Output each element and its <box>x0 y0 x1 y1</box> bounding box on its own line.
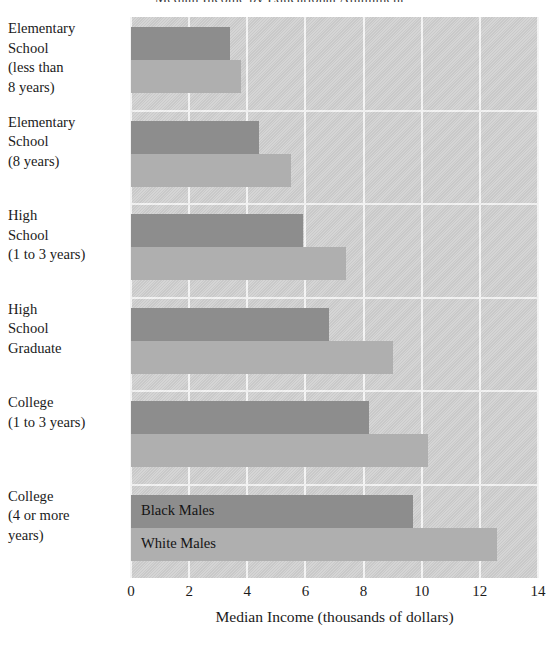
bar-white-males-group-4 <box>131 341 393 374</box>
category-label-line: High <box>8 206 130 226</box>
gridline-horizontal-2 <box>131 203 538 205</box>
category-label-line: 8 years) <box>8 78 130 98</box>
bar-white-males-group-5 <box>131 434 428 467</box>
category-label-line: Graduate <box>8 339 130 359</box>
bar-white-males-group-3 <box>131 247 346 280</box>
bar-black-males-group-3 <box>131 214 303 247</box>
gridline-horizontal-4 <box>131 390 538 392</box>
bar-black-males-group-1 <box>131 27 230 60</box>
category-label-line: High <box>8 300 130 320</box>
bar-black-males-group-6: Black Males <box>131 495 413 528</box>
legend-label-white-males: White Males <box>141 535 216 552</box>
bar-white-males-group-6: White Males <box>131 528 497 561</box>
x-tick-0: 0 <box>127 583 135 600</box>
x-tick-14: 14 <box>531 583 546 600</box>
gridline-horizontal-5 <box>131 484 538 486</box>
bar-chart: Median Income by Educational Attainment … <box>0 0 559 655</box>
bar-white-males-group-1 <box>131 60 241 93</box>
category-label-6: College(4 or moreyears) <box>8 487 130 546</box>
x-tick-6: 6 <box>302 583 310 600</box>
chart-title: Median Income by Educational Attainment <box>0 0 559 2</box>
x-tick-2: 2 <box>185 583 193 600</box>
category-label-line: School <box>8 226 130 246</box>
category-label-2: ElementarySchool(8 years) <box>8 113 130 172</box>
category-label-line: (1 to 3 years) <box>8 245 130 265</box>
category-axis-labels: ElementarySchool(less than8 years)Elemen… <box>0 17 131 578</box>
category-label-4: HighSchoolGraduate <box>8 300 130 359</box>
category-label-line: School <box>8 319 130 339</box>
x-axis-tick-labels: 02468101214 <box>131 583 538 605</box>
legend-label-black-males: Black Males <box>141 502 214 519</box>
gridline-horizontal-1 <box>131 110 538 112</box>
gridline-horizontal-3 <box>131 297 538 299</box>
category-label-line: (1 to 3 years) <box>8 413 130 433</box>
x-tick-12: 12 <box>472 583 487 600</box>
category-label-line: Elementary <box>8 113 130 133</box>
x-tick-8: 8 <box>360 583 368 600</box>
category-label-line: (8 years) <box>8 152 130 172</box>
x-tick-10: 10 <box>414 583 429 600</box>
bar-black-males-group-4 <box>131 308 329 341</box>
plot-area: Black MalesWhite Males <box>131 17 538 578</box>
category-label-line: years) <box>8 526 130 546</box>
category-label-line: College <box>8 393 130 413</box>
category-label-5: College(1 to 3 years) <box>8 393 130 432</box>
category-label-line: School <box>8 132 130 152</box>
bar-black-males-group-5 <box>131 401 369 434</box>
x-axis-title: Median Income (thousands of dollars) <box>131 608 538 626</box>
category-label-line: College <box>8 487 130 507</box>
category-label-line: (4 or more <box>8 506 130 526</box>
category-label-line: Elementary <box>8 19 130 39</box>
bar-white-males-group-2 <box>131 154 291 187</box>
category-label-line: School <box>8 39 130 59</box>
category-label-3: HighSchool(1 to 3 years) <box>8 206 130 265</box>
category-label-line: (less than <box>8 58 130 78</box>
x-tick-4: 4 <box>244 583 252 600</box>
bar-black-males-group-2 <box>131 121 259 154</box>
category-label-1: ElementarySchool(less than8 years) <box>8 19 130 97</box>
